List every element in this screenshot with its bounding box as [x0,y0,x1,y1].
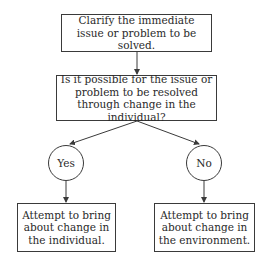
individual-label: Attempt to bring about change in the ind… [21,209,112,247]
start-label: Clarify the immediate issue or problem t… [65,14,208,52]
no-node: No [186,145,222,181]
start-box: Clarify the immediate issue or problem t… [61,14,212,52]
yes-node: Yes [48,145,84,181]
question-label: Is it possible for the issue or problem … [60,73,213,123]
question-box: Is it possible for the issue or problem … [56,75,217,121]
environment-box: Attempt to bring about change in the env… [154,203,255,252]
individual-box: Attempt to bring about change in the ind… [17,203,116,252]
environment-label: Attempt to bring about change in the env… [158,209,251,247]
no-label: No [196,157,212,169]
yes-label: Yes [57,157,75,169]
